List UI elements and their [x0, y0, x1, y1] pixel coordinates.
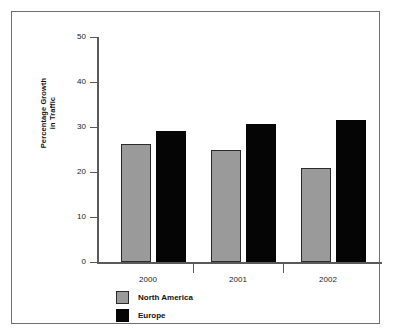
legend-swatch-europe — [116, 309, 129, 322]
x-axis-line — [97, 262, 382, 264]
y-axis-title: Percentage Growth in Traffic — [39, 63, 57, 163]
legend-item-north-america[interactable]: North America — [116, 288, 193, 306]
chart-frame: Percentage Growth in Traffic 50 40 30 20… — [11, 11, 380, 324]
x-tick-label-2000: 2000 — [118, 275, 178, 284]
legend-label-europe: Europe — [138, 311, 166, 320]
y-tick-label-10: 10 — [60, 213, 86, 221]
y-tick-label-20: 20 — [60, 168, 86, 176]
y-tick-10 — [90, 217, 98, 218]
bar-europe-2002[interactable] — [336, 120, 366, 262]
y-tick-label-wrap-40: 40 — [56, 78, 86, 86]
y-tick-label-wrap-50: 50 — [56, 33, 86, 41]
figure: Percentage Growth in Traffic 50 40 30 20… — [0, 0, 398, 336]
y-tick-label-40: 40 — [60, 78, 86, 86]
legend-label-north-america: North America — [138, 293, 193, 302]
y-tick-40 — [90, 82, 98, 83]
x-tick-label-2002: 2002 — [298, 275, 358, 284]
y-tick-30 — [90, 127, 98, 128]
y-tick-label-0: 0 — [60, 258, 86, 266]
bar-europe-2000[interactable] — [156, 131, 186, 262]
bar-europe-2001[interactable] — [246, 124, 276, 262]
y-tick-label-wrap-10: 10 — [56, 213, 86, 221]
y-tick-label-wrap-20: 20 — [56, 168, 86, 176]
x-tick-separator-1 — [193, 264, 194, 273]
bars-area — [99, 37, 382, 262]
legend-item-europe[interactable]: Europe — [116, 306, 193, 324]
y-tick-50 — [90, 37, 98, 38]
y-tick-label-wrap-0: 0 — [56, 258, 86, 266]
bar-north-america-2000[interactable] — [121, 144, 151, 262]
x-tick-separator-2 — [283, 264, 284, 273]
y-tick-0 — [90, 262, 98, 263]
y-axis-title-line-1: Percentage Growth — [39, 63, 48, 163]
legend-swatch-north-america — [116, 291, 129, 304]
y-tick-20 — [90, 172, 98, 173]
bar-north-america-2002[interactable] — [301, 168, 331, 262]
y-tick-label-50: 50 — [60, 33, 86, 41]
y-tick-label-wrap-30: 30 — [56, 123, 86, 131]
x-tick-label-2001: 2001 — [208, 275, 268, 284]
legend: North America Europe — [116, 288, 193, 324]
bar-north-america-2001[interactable] — [211, 150, 241, 262]
y-tick-label-30: 30 — [60, 123, 86, 131]
